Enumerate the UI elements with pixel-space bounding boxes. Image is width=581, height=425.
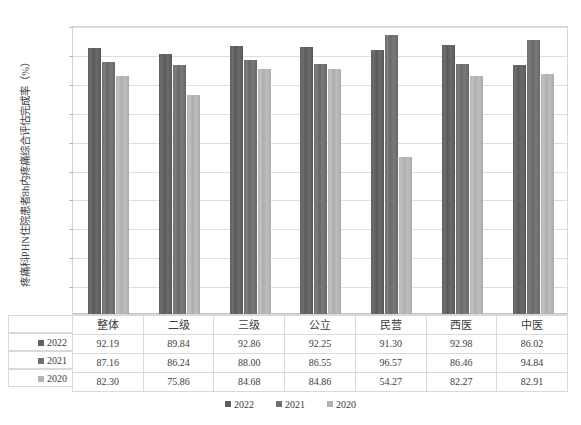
bar-2020-整体: [116, 76, 129, 314]
table-cell: 86.02: [497, 335, 568, 354]
bar-2021-民营: [385, 35, 398, 314]
chart-legend: 202220212020: [0, 398, 581, 410]
table-cell: 94.84: [497, 354, 568, 373]
table-cell: 92.25: [285, 335, 356, 354]
table-column-header: 整体: [73, 316, 144, 335]
table-row-label-2020: 2020: [8, 369, 72, 387]
bar-2022-公立: [300, 47, 313, 314]
table-cell: 92.98: [426, 335, 497, 354]
table-cell: 88.00: [214, 354, 285, 373]
table-corner-cell: [8, 315, 72, 333]
table-column-header: 二级: [143, 316, 214, 335]
data-table: 整体二级三级公立民营西医中医92.1989.8492.8692.2591.309…: [72, 315, 568, 392]
table-column-header: 三级: [214, 316, 285, 335]
table-column-header: 民营: [355, 316, 426, 335]
bar-2022-整体: [88, 48, 101, 314]
table-cell: 54.27: [355, 373, 426, 392]
legend-label: 2020: [336, 399, 356, 410]
table-row: 87.1686.2488.0086.5596.5786.4694.84: [73, 354, 568, 373]
table-row: 82.3075.8684.6884.8654.2782.2782.91: [73, 373, 568, 392]
table-row-label-2022: 2022: [8, 333, 72, 351]
table-row-label-2021: 2021: [8, 351, 72, 369]
bar-2022-西医: [442, 45, 455, 314]
bar-2022-中医: [513, 65, 526, 314]
table-cell: 92.86: [214, 335, 285, 354]
table-cell: 82.27: [426, 373, 497, 392]
bar-2020-公立: [328, 69, 341, 314]
bar-2021-二级: [173, 65, 186, 314]
legend-swatch-icon: [327, 401, 333, 407]
table-cell: 96.57: [355, 354, 426, 373]
table-cell: 87.16: [73, 354, 144, 373]
table-cell: 86.55: [285, 354, 356, 373]
bar-2020-西医: [470, 76, 483, 314]
bar-2020-中医: [541, 74, 554, 314]
bar-group: [286, 27, 357, 314]
bar-group: [356, 27, 427, 314]
legend-swatch-icon: [276, 401, 282, 407]
series-swatch-icon: [38, 340, 44, 346]
table-cell: 86.24: [143, 354, 214, 373]
bar-2020-民营: [399, 157, 412, 314]
bar-2021-公立: [314, 64, 327, 314]
series-swatch-icon: [38, 376, 44, 382]
table-cell: 75.86: [143, 373, 214, 392]
bar-group: [427, 27, 498, 314]
table-cell: 86.46: [426, 354, 497, 373]
bar-2022-二级: [159, 54, 172, 314]
bar-group: [144, 27, 215, 314]
bar-2021-中医: [527, 40, 540, 314]
table-cell: 92.19: [73, 335, 144, 354]
chart-container: 疼痛科PHN住院患者8h内疼痛综合评估完成率（%） 0.0010.0020.00…: [0, 0, 581, 425]
table-row-label-text: 2022: [47, 337, 67, 348]
table-cell: 89.84: [143, 335, 214, 354]
table-cell: 84.68: [214, 373, 285, 392]
y-axis-title: 疼痛科PHN住院患者8h内疼痛综合评估完成率（%）: [20, 30, 32, 315]
legend-item-2022[interactable]: 2022: [225, 398, 254, 410]
bar-2021-整体: [102, 62, 115, 314]
bar-group: [498, 27, 569, 314]
table-column-header: 西医: [426, 316, 497, 335]
table-row-label-text: 2021: [47, 355, 67, 366]
legend-label: 2021: [285, 399, 305, 410]
table-row-label-text: 2020: [47, 373, 67, 384]
legend-label: 2022: [234, 399, 254, 410]
table-cell: 82.91: [497, 373, 568, 392]
legend-item-2020[interactable]: 2020: [327, 398, 356, 410]
table-header-row: 整体二级三级公立民营西医中医: [73, 316, 568, 335]
table-column-header: 中医: [497, 316, 568, 335]
bar-2022-民营: [371, 50, 384, 314]
bar-2022-三级: [230, 46, 243, 314]
bar-2021-三级: [244, 60, 257, 314]
bar-group: [215, 27, 286, 314]
plot-area: [72, 26, 568, 315]
bar-2020-三级: [258, 69, 271, 314]
table-row: 92.1989.8492.8692.2591.3092.9886.02: [73, 335, 568, 354]
bar-2020-二级: [187, 95, 200, 314]
bar-group: [73, 27, 144, 314]
bar-2021-西医: [456, 64, 469, 314]
table-cell: 82.30: [73, 373, 144, 392]
legend-item-2021[interactable]: 2021: [276, 398, 305, 410]
series-swatch-icon: [38, 358, 44, 364]
table-cell: 84.86: [285, 373, 356, 392]
legend-swatch-icon: [225, 401, 231, 407]
table-cell: 91.30: [355, 335, 426, 354]
table-column-header: 公立: [285, 316, 356, 335]
